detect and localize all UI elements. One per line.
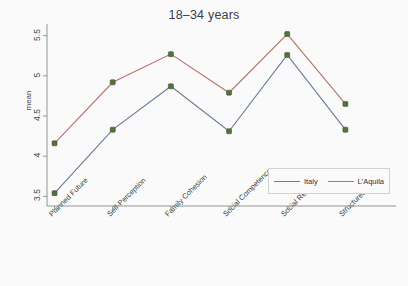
data-point-marker (168, 52, 173, 57)
legend-label-italy: Italy (304, 177, 318, 186)
data-point-marker (168, 84, 173, 89)
data-point-marker (227, 129, 232, 134)
legend-item-laquila[interactable]: L'Aquila (328, 177, 384, 186)
legend-swatch-laquila (328, 181, 354, 182)
legend-swatch-italy (274, 181, 300, 182)
data-point-marker (285, 52, 290, 57)
chart-legend: Italy L'Aquila (268, 168, 390, 194)
data-point-marker (285, 32, 290, 37)
data-point-marker (110, 80, 115, 85)
data-point-marker (227, 90, 232, 95)
legend-label-laquila: L'Aquila (358, 177, 384, 186)
plot-area (0, 0, 408, 286)
data-point-marker (343, 101, 348, 106)
data-point-marker (110, 127, 115, 132)
data-point-marker (52, 141, 57, 146)
series-line-laquila (55, 34, 346, 143)
data-point-marker (343, 127, 348, 132)
data-point-marker (52, 191, 57, 196)
chart-container: 18–34 years mean 3.544.555.5 Planned Fut… (0, 0, 408, 286)
legend-item-italy[interactable]: Italy (274, 177, 318, 186)
